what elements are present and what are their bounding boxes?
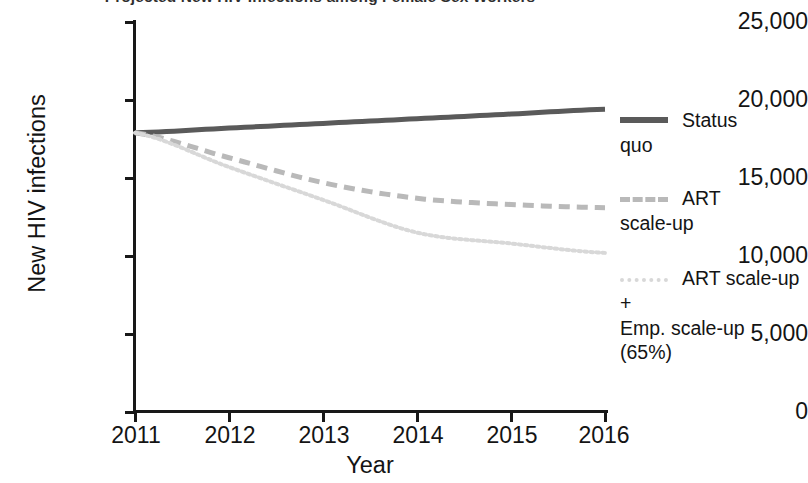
x-tick-mark	[510, 412, 513, 422]
dashed-line-swatch-icon	[620, 197, 668, 202]
y-tick-label-25000: 25,000	[692, 10, 808, 33]
legend-item-art-scale-up[interactable]: ART scale-up	[620, 186, 808, 236]
dotted-line-swatch-icon	[620, 278, 668, 282]
legend-label-status-quo: Status quo	[620, 109, 737, 156]
y-tick-label-0: 0	[692, 400, 808, 423]
y-axis-title: New HIV infections	[24, 29, 51, 359]
y-tick-label-10000: 10,000	[692, 244, 808, 267]
x-axis-title: Year	[135, 452, 605, 479]
x-tick-mark	[228, 412, 231, 422]
solid-line-swatch-icon	[620, 117, 668, 123]
legend-item-status-quo[interactable]: Status quo	[620, 108, 808, 158]
series-canvas	[135, 22, 605, 412]
x-tick-mark	[416, 412, 419, 422]
series-line-status-quo	[135, 109, 605, 132]
series-line-art-scale-up	[135, 133, 605, 208]
legend-label-art-scale-up: ART scale-up	[620, 187, 721, 234]
x-tick-mark	[322, 412, 325, 422]
plot-area	[135, 22, 605, 412]
x-tick-mark	[134, 412, 137, 422]
chart-title: Projected New HIV Infections among Femal…	[0, 0, 640, 6]
legend-item-art-emp-scale-up[interactable]: ART scale-up + Emp. scale-up (65%)	[620, 266, 808, 365]
x-tick-label-2016: 2016	[549, 424, 659, 447]
x-tick-mark	[604, 412, 607, 422]
chart-figure: Projected New HIV Infections among Femal…	[0, 0, 808, 483]
